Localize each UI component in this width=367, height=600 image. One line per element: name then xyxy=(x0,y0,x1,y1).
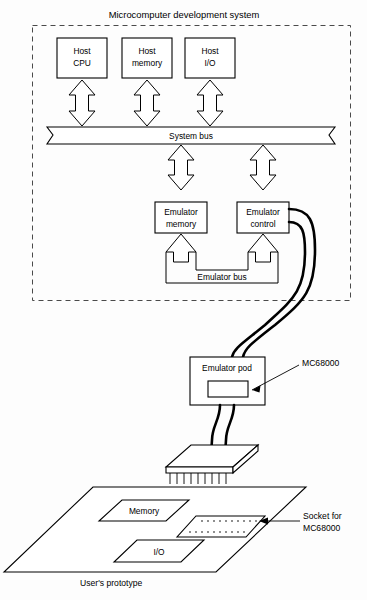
arrow-host-io-to-system-bus xyxy=(197,80,223,126)
up-arrow-icon xyxy=(166,234,196,262)
arrow-system-bus-to-emulator-control xyxy=(250,145,276,190)
prototype-io-label: I/O xyxy=(153,547,165,557)
system-bus-label: System bus xyxy=(169,131,213,141)
emulator-memory-label-line1: Emulator xyxy=(164,207,198,217)
dip-emulation-plug xyxy=(166,445,258,484)
host-io-label-line2: I/O xyxy=(204,58,216,68)
host-memory-block: Host memory xyxy=(122,38,172,78)
system-bus: System bus xyxy=(47,127,335,144)
emulator-memory-block: Emulator memory xyxy=(155,202,207,233)
emulator-pod-label: Emulator pod xyxy=(202,363,252,373)
figure-root: Microcomputer development system Host CP… xyxy=(0,0,367,600)
host-cpu-label-line1: Host xyxy=(73,46,91,56)
host-cpu-block: Host CPU xyxy=(57,38,107,78)
host-io-block: Host I/O xyxy=(185,38,235,78)
mc68000-callout-label: MC68000 xyxy=(302,358,339,368)
host-memory-label-line2: memory xyxy=(132,58,163,68)
dip-chip-pins xyxy=(170,473,226,484)
prototype-board: Memory I/O xyxy=(4,487,306,572)
socket-callout-line2: MC68000 xyxy=(303,523,340,533)
block-diagram: Microcomputer development system Host CP… xyxy=(0,0,367,600)
emulator-control-label-line1: Emulator xyxy=(246,207,280,217)
figure-caption: User's prototype xyxy=(80,578,143,588)
emulator-pod-chip xyxy=(208,381,248,397)
host-cpu-label-line2: CPU xyxy=(73,58,91,68)
double-headed-arrow-icon xyxy=(134,80,160,126)
double-headed-arrow-icon xyxy=(197,80,223,126)
emulator-bus-inner xyxy=(196,252,248,270)
prototype-memory-label: Memory xyxy=(129,506,160,516)
dip-chip-front-face xyxy=(166,467,233,473)
arrow-host-memory-to-system-bus xyxy=(134,80,160,126)
double-headed-arrow-icon xyxy=(168,145,194,190)
up-arrow-icon xyxy=(248,234,278,262)
figure-title: Microcomputer development system xyxy=(109,9,260,20)
emulator-pod: Emulator pod xyxy=(190,357,265,405)
emulator-control-block: Emulator control xyxy=(237,202,289,233)
emulator-bus-label: Emulator bus xyxy=(197,272,246,282)
double-headed-arrow-icon xyxy=(250,145,276,190)
host-io-label-line1: Host xyxy=(201,46,219,56)
emulator-bus: Emulator bus xyxy=(166,234,278,283)
emulator-memory-label-line2: memory xyxy=(166,219,197,229)
socket-callout-line1: Socket for xyxy=(303,511,342,521)
emulator-control-label-line2: control xyxy=(250,219,275,229)
arrow-host-cpu-to-system-bus xyxy=(69,80,95,126)
arrow-system-bus-to-emulator-memory xyxy=(168,145,194,190)
double-headed-arrow-icon xyxy=(69,80,95,126)
host-memory-label-line1: Host xyxy=(138,46,156,56)
